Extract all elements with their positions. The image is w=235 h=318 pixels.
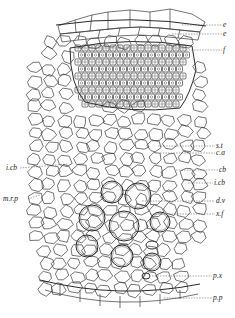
label-cambium: cb xyxy=(219,166,226,174)
label-interfascicular-cambium-right: i.cb xyxy=(214,179,225,187)
label-fibre: f xyxy=(223,46,225,54)
label-pith-parenchyma: p.p xyxy=(213,294,222,302)
vascular-bundle-diagram: e e f s.t c.a cb i.cb d.v x.f p.x p.p i.… xyxy=(0,0,235,318)
label-medullary-ray-parenchyma: m.r.p xyxy=(3,195,18,203)
cell-drawing xyxy=(0,0,235,318)
label-epidermis: e xyxy=(223,21,226,29)
lower-epidermis xyxy=(40,280,200,308)
label-dotted-vessel: d.v xyxy=(216,197,225,205)
label-epidermis-inner: e xyxy=(223,30,226,38)
ground-parenchyma xyxy=(26,35,211,298)
label-xylem-fibre: x.f xyxy=(216,210,223,218)
fibre-cap xyxy=(70,41,196,110)
epidermis xyxy=(56,9,206,42)
label-interfascicular-cambium-left: i.cb xyxy=(6,164,17,172)
label-protoxylem: p.x xyxy=(213,272,222,280)
label-companion-cell: c.a xyxy=(216,149,225,157)
